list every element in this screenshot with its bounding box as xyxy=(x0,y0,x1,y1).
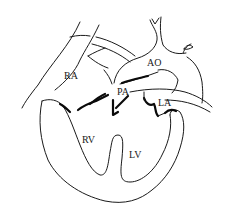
label-lv: LV xyxy=(129,149,142,160)
label-ra: RA xyxy=(64,70,79,81)
right-atrium-outline xyxy=(22,22,105,108)
label-rv: RV xyxy=(82,134,96,145)
label-la: LA xyxy=(158,97,172,108)
label-ao: AO xyxy=(147,57,161,68)
label-pa: PA xyxy=(117,86,130,97)
heart-outer-wall xyxy=(40,100,184,203)
heart-diagram: RA AO PA LA RV LV xyxy=(0,0,225,216)
